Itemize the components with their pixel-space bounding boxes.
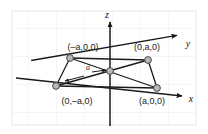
point-label-lower-right: (a,0,0)	[139, 96, 165, 106]
x-axis-label: x	[188, 93, 194, 104]
dimension-label: a	[86, 63, 90, 72]
z-axis-label: z	[104, 9, 109, 20]
figure-root: z y x (–a,0,0) (0,a,0) (0,–a,0) (a,0,0) …	[0, 0, 208, 134]
point-label-upper-left: (–a,0,0)	[67, 42, 98, 52]
point-label-upper-right: (0,a,0)	[134, 42, 160, 52]
y-axis-label: y	[185, 38, 191, 49]
node-origin	[107, 68, 114, 75]
background-grid	[12, 11, 196, 125]
node-upper-right	[145, 57, 152, 64]
node-lower-right	[154, 85, 161, 92]
point-label-lower-left: (0,–a,0)	[61, 96, 92, 106]
node-upper-left	[67, 55, 74, 62]
node-lower-left	[53, 83, 60, 90]
coordinate-figure: z y x (–a,0,0) (0,a,0) (0,–a,0) (a,0,0) …	[0, 0, 208, 134]
